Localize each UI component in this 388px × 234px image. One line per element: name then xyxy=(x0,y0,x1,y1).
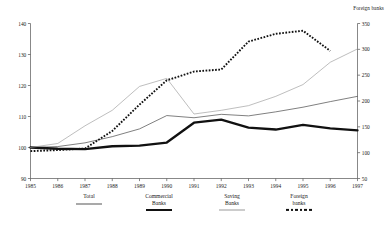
left-axis-tick-label: 90 xyxy=(21,176,27,182)
dotted-swatch-icon xyxy=(286,209,312,211)
left-axis-tick-label: 140 xyxy=(18,21,26,27)
x-axis-tick-label: 1994 xyxy=(270,183,281,189)
x-axis-tick-label: 1997 xyxy=(352,183,363,189)
legend-item-total: Total xyxy=(62,193,116,206)
right-axis-tick-label: 350 xyxy=(362,21,370,27)
legend-item-commercial-banks: Commercial Banks xyxy=(130,193,188,212)
right-axis-tick-label: 50 xyxy=(362,176,368,182)
left-axis-tick-label: 120 xyxy=(18,83,26,89)
x-axis-tick-label: 1989 xyxy=(134,183,145,189)
x-axis-tick-label: 1990 xyxy=(161,183,172,189)
x-axis-tick-label: 1985 xyxy=(25,183,36,189)
legend-label-commercial-banks: Commercial Banks xyxy=(130,193,188,206)
chart-container: Foreign banks 90100110120130140501001502… xyxy=(0,0,388,234)
right-axis-tick-label: 150 xyxy=(362,124,370,130)
x-axis-tick-label: 1992 xyxy=(216,183,227,189)
x-axis-tick-label: 1987 xyxy=(80,183,91,189)
x-axis-tick-label: 1996 xyxy=(325,183,336,189)
legend-item-saving-banks: Saving Banks xyxy=(205,193,259,212)
legend-swatch-commercial-banks xyxy=(146,208,172,212)
left-axis-tick-label: 100 xyxy=(18,145,26,151)
series-line-commercial-banks xyxy=(31,120,358,149)
x-axis-tick-label: 1988 xyxy=(107,183,118,189)
thin-light-swatch-icon xyxy=(219,210,245,211)
right-axis-tick-label: 250 xyxy=(362,72,370,78)
left-axis-tick-label: 130 xyxy=(18,52,26,58)
x-axis-tick-label: 1991 xyxy=(189,183,200,189)
legend-item-foreign-banks: Foreign banks xyxy=(272,193,326,212)
x-axis-tick-label: 1995 xyxy=(298,183,309,189)
left-axis-tick-label: 110 xyxy=(18,114,26,120)
thick-solid-swatch-icon xyxy=(146,209,172,211)
right-axis-tick-label: 100 xyxy=(362,150,370,156)
legend-label-foreign-banks: Foreign banks xyxy=(272,193,326,206)
right-axis-tick-label: 300 xyxy=(362,46,370,52)
thin-solid-swatch-icon xyxy=(76,203,102,204)
x-axis-tick-label: 1986 xyxy=(52,183,63,189)
legend-swatch-total xyxy=(76,202,102,206)
right-axis-tick-label: 200 xyxy=(362,98,370,104)
chart-legend: Total Commercial Banks Saving Banks Fore… xyxy=(0,193,388,234)
legend-label-saving-banks: Saving Banks xyxy=(205,193,259,206)
x-axis-tick-label: 1993 xyxy=(243,183,254,189)
legend-label-total: Total xyxy=(62,193,116,200)
series-line-saving-banks xyxy=(31,49,358,148)
legend-swatch-saving-banks xyxy=(219,208,245,212)
legend-swatch-foreign-banks xyxy=(286,208,312,212)
